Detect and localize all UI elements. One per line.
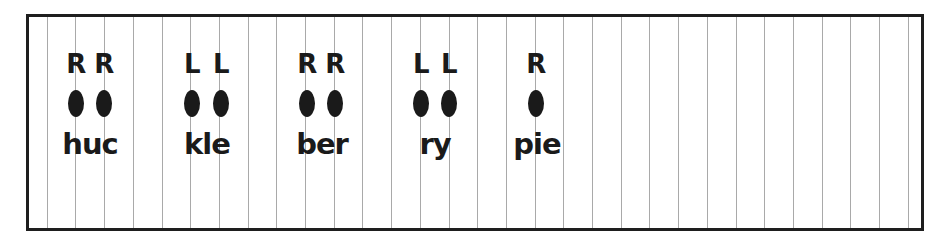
hand-label: L	[209, 51, 233, 77]
grid-line	[362, 17, 363, 228]
grid-line	[764, 17, 765, 228]
hand-label: R	[92, 51, 116, 77]
grid-line	[563, 17, 564, 228]
rhythm-grid-frame: R R huc L L kle R R ber L L ry R pie	[26, 14, 924, 231]
grid-line	[908, 17, 909, 228]
grid-line	[879, 17, 880, 228]
grid-line	[736, 17, 737, 228]
grid-line	[822, 17, 823, 228]
grid-line	[621, 17, 622, 228]
syllable-text: ber	[262, 127, 382, 161]
grid-line	[649, 17, 650, 228]
hand-label: R	[524, 51, 548, 77]
grid-line	[477, 17, 478, 228]
hand-label: R	[64, 51, 88, 77]
beat-dot-icon	[413, 90, 429, 117]
grid-line	[707, 17, 708, 228]
syllable-text: huc	[30, 127, 150, 161]
beat-dot-icon	[528, 90, 544, 117]
grid-line	[276, 17, 277, 228]
hand-label: R	[323, 51, 347, 77]
beat-dot-icon	[327, 90, 343, 117]
hand-label: L	[437, 51, 461, 77]
beat-dot-icon	[96, 90, 112, 117]
syllable-text: kle	[147, 127, 267, 161]
beat-dot-icon	[299, 90, 315, 117]
beat-dot-icon	[68, 90, 84, 117]
grid-line	[162, 17, 163, 228]
grid-line	[506, 17, 507, 228]
grid-line	[47, 17, 48, 228]
grid-line	[793, 17, 794, 228]
syllable-text: pie	[477, 127, 597, 161]
hand-label: L	[180, 51, 204, 77]
grid-line	[850, 17, 851, 228]
beat-dot-icon	[441, 90, 457, 117]
grid-line	[592, 17, 593, 228]
beat-dot-icon	[184, 90, 200, 117]
grid-line	[678, 17, 679, 228]
grid-line	[248, 17, 249, 228]
grid-line	[391, 17, 392, 228]
grid-line	[133, 17, 134, 228]
hand-label: R	[295, 51, 319, 77]
hand-label: L	[409, 51, 433, 77]
beat-dot-icon	[213, 90, 229, 117]
